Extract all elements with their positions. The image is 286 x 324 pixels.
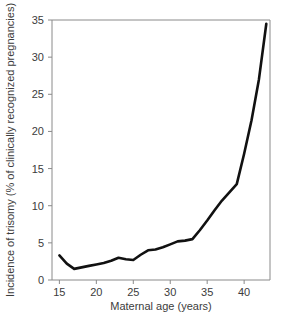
- x-tick-label: 35: [201, 286, 213, 298]
- trisomy-incidence-line: [59, 24, 266, 269]
- plot-frame: [52, 20, 270, 280]
- y-tick-label: 10: [32, 200, 44, 212]
- y-tick-label: 15: [32, 163, 44, 175]
- x-tick-label: 40: [238, 286, 250, 298]
- y-tick-label: 35: [32, 14, 44, 26]
- x-axis-title: Maternal age (years): [110, 300, 212, 312]
- y-tick-label: 25: [32, 88, 44, 100]
- x-tick-label: 15: [53, 286, 65, 298]
- x-tick-label: 30: [164, 286, 176, 298]
- y-tick-label: 20: [32, 125, 44, 137]
- trisomy-incidence-chart: 05101520253035 152025303540 Maternal age…: [0, 0, 286, 324]
- y-axis-title: Incidence of trisomy (% of clinically re…: [4, 3, 16, 297]
- y-axis-ticks: 05101520253035: [32, 14, 52, 286]
- x-tick-label: 25: [127, 286, 139, 298]
- chart-canvas: 05101520253035 152025303540 Maternal age…: [0, 0, 286, 324]
- x-tick-label: 20: [90, 286, 102, 298]
- x-axis-ticks: 152025303540: [53, 280, 250, 298]
- y-tick-label: 30: [32, 51, 44, 63]
- y-tick-label: 0: [38, 274, 44, 286]
- y-tick-label: 5: [38, 237, 44, 249]
